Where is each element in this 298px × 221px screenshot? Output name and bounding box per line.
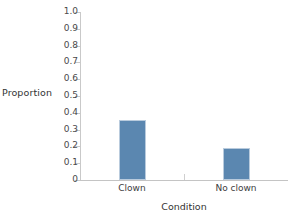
x-category-label: Clown [82,183,182,193]
y-tick-label: 0.3 [54,124,78,134]
y-tick-label: 0.7 [54,56,78,66]
x-category-label: No clown [186,183,286,193]
y-tick-label: 0.9 [54,23,78,33]
y-axis-line [80,12,81,181]
y-tick-label: 0.4 [54,107,78,117]
y-tick-label: 0.2 [54,140,78,150]
bar [223,148,250,180]
x-axis-line [80,180,288,181]
bar [119,120,146,180]
bar-chart: Proportion 00.10.20.30.40.50.60.70.80.91… [0,0,298,221]
y-tick-label: 0.8 [54,40,78,50]
y-tick-label: 0.6 [54,73,78,83]
y-tick-label: 0.5 [54,90,78,100]
y-tick-label: 0 [54,174,78,184]
y-tick-label: 0.1 [54,157,78,167]
y-tick-label: 1.0 [54,6,78,16]
x-tick-mark [184,174,185,180]
y-axis-title: Proportion [2,87,62,98]
x-axis-title: Condition [80,201,288,212]
